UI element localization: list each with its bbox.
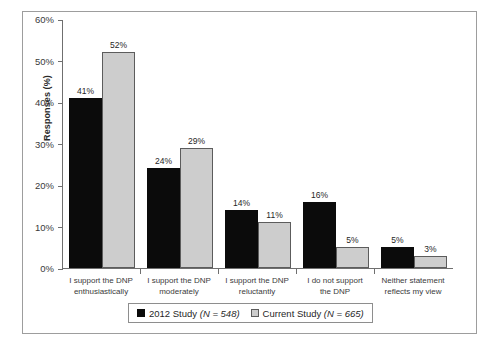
bar-group: 5%3%: [375, 20, 453, 268]
bar-value-label: 24%: [155, 156, 172, 166]
category-label-line: I support the DNP: [62, 276, 140, 287]
category-label-line: enthusiastically: [62, 287, 140, 298]
x-tick-mark: [140, 269, 141, 274]
bar-value-label: 16%: [311, 190, 328, 200]
legend-swatch: [251, 309, 259, 317]
bar[interactable]: 14%: [225, 210, 258, 268]
legend-sample-size: (N = 665): [324, 308, 364, 319]
y-tick-mark: [58, 20, 62, 21]
bar-pair: 24%29%: [141, 20, 219, 268]
bar[interactable]: 24%: [147, 168, 180, 268]
category-label: I support the DNPreluctantly: [218, 276, 296, 297]
bar[interactable]: 11%: [258, 222, 291, 268]
y-tick-label: 50%: [35, 56, 54, 68]
category-label-line: the DNP: [296, 287, 374, 298]
x-tick-mark: [296, 269, 297, 274]
y-tick: 40%: [22, 97, 62, 109]
y-tick: 50%: [22, 56, 62, 68]
legend-label: Current Study (N = 665): [263, 308, 364, 319]
plot-area: 0%10%20%30%40%50%60% 41%52%24%29%14%11%1…: [62, 20, 452, 269]
bar-group: 16%5%: [297, 20, 375, 268]
x-tick-mark: [374, 269, 375, 274]
bar-pair: 14%11%: [219, 20, 297, 268]
y-tick-mark: [58, 269, 62, 270]
y-tick-label: 30%: [35, 139, 54, 151]
category-label-line: reflects my view: [374, 287, 452, 298]
y-tick: 20%: [22, 180, 62, 192]
bar-group: 41%52%: [63, 20, 141, 268]
chart-legend: 2012 Study (N = 548)Current Study (N = 6…: [128, 303, 373, 323]
category-label: I support the DNPmoderately: [140, 276, 218, 297]
y-tick-label: 20%: [35, 180, 54, 192]
bar[interactable]: 29%: [180, 148, 213, 268]
y-tick-mark: [58, 61, 62, 62]
bar-value-label: 11%: [266, 210, 282, 220]
y-tick: 30%: [22, 139, 62, 151]
legend-entry[interactable]: Current Study (N = 665): [251, 308, 364, 319]
bar-value-label: 29%: [188, 136, 205, 146]
bar-pair: 5%3%: [375, 20, 453, 268]
y-tick: 60%: [22, 14, 62, 26]
category-label-line: reluctantly: [218, 287, 296, 298]
y-tick: 0%: [22, 263, 62, 275]
bar-group: 14%11%: [219, 20, 297, 268]
bar-value-label: 5%: [346, 235, 358, 245]
category-label-line: moderately: [140, 287, 218, 298]
y-tick-mark: [58, 186, 62, 187]
bar-value-label: 5%: [391, 235, 403, 245]
bar-pair: 16%5%: [297, 20, 375, 268]
y-tick-label: 40%: [35, 97, 54, 109]
category-label: Neither statementreflects my view: [374, 276, 452, 297]
bar-value-label: 3%: [424, 244, 436, 254]
bar[interactable]: 52%: [102, 52, 135, 268]
bar[interactable]: 5%: [381, 247, 414, 268]
category-label-line: I do not support: [296, 276, 374, 287]
legend-swatch: [137, 309, 145, 317]
legend-sample-size: (N = 548): [200, 308, 240, 319]
y-tick-label: 10%: [35, 222, 54, 234]
bar-pair: 41%52%: [63, 20, 141, 268]
category-label: I do not supportthe DNP: [296, 276, 374, 297]
category-label-line: Neither statement: [374, 276, 452, 287]
bar-layer: 41%52%24%29%14%11%16%5%5%3%: [63, 20, 452, 268]
bar[interactable]: 3%: [414, 256, 447, 268]
bar[interactable]: 16%: [303, 202, 336, 268]
bar[interactable]: 41%: [69, 98, 102, 268]
legend-label: 2012 Study (N = 548): [149, 308, 240, 319]
y-tick: 10%: [22, 222, 62, 234]
bar-value-label: 41%: [77, 86, 94, 96]
y-tick-label: 60%: [35, 14, 54, 26]
y-tick-mark: [58, 144, 62, 145]
y-tick-mark: [58, 227, 62, 228]
x-tick-mark: [218, 269, 219, 274]
bar-value-label: 52%: [110, 40, 127, 50]
legend-entry[interactable]: 2012 Study (N = 548): [137, 308, 240, 319]
y-tick-label: 0%: [40, 263, 54, 275]
category-label-line: I support the DNP: [218, 276, 296, 287]
y-tick-mark: [58, 103, 62, 104]
category-label-line: I support the DNP: [140, 276, 218, 287]
bar-group: 24%29%: [141, 20, 219, 268]
bar[interactable]: 5%: [336, 247, 369, 268]
bar-value-label: 14%: [233, 198, 250, 208]
category-label: I support the DNPenthusiastically: [62, 276, 140, 297]
x-axis-line: [62, 268, 453, 269]
